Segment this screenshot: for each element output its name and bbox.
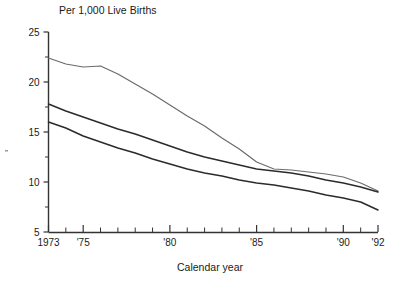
series-line-u-s-white	[49, 122, 379, 210]
y-tick-label: 5	[34, 227, 40, 238]
y-axis: 510152025	[28, 27, 48, 238]
x-tick-label: '90	[337, 237, 350, 248]
chart-title: Per 1,000 Live Births	[59, 4, 156, 16]
x-tick-label: '92	[371, 237, 384, 248]
x-tick-label: '80	[163, 237, 176, 248]
x-axis-title: Calendar year	[177, 261, 243, 273]
x-tick-label: 1973	[37, 237, 60, 248]
y-axis-tick-labels: 510152025	[28, 27, 40, 238]
y-tick-label: 25	[28, 27, 40, 38]
x-axis: 1973'75'80'85'90'92	[37, 225, 385, 248]
series-line-u-s-all-races	[49, 104, 379, 192]
y-tick-label: 10	[28, 177, 40, 188]
data-series-group	[49, 58, 379, 210]
mortality-rate-line-chart: Per 1,000 Live Births 510152025 1973'75'…	[0, 0, 402, 291]
x-axis-tick-labels: 1973'75'80'85'90'92	[37, 237, 385, 248]
stray-mark	[5, 150, 8, 152]
series-line-indians-alaska-natives	[49, 58, 379, 191]
x-axis-ticks	[49, 225, 379, 232]
chart-canvas: Per 1,000 Live Births 510152025 1973'75'…	[0, 0, 402, 291]
y-tick-label: 20	[28, 77, 40, 88]
y-tick-label: 15	[28, 127, 40, 138]
y-axis-ticks	[44, 32, 49, 232]
x-tick-label: '85	[250, 237, 263, 248]
x-tick-label: '75	[77, 237, 90, 248]
